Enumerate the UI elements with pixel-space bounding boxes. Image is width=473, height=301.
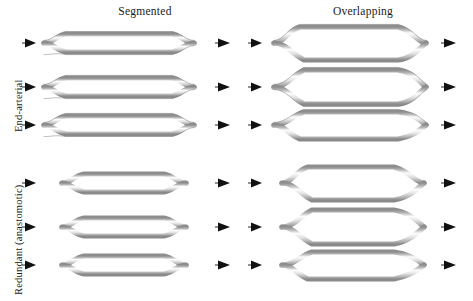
vascular-architecture-figure: Segmented Overlapping End-arterial Redun… [0, 0, 473, 301]
anastomotic-bridges-right [424, 183, 436, 265]
anastomotic-bridges-left [44, 183, 56, 265]
panel-end-arterial-segmented [22, 20, 237, 145]
column-header-overlapping: Overlapping [268, 4, 458, 18]
column-header-segmented: Segmented [60, 4, 230, 18]
panel-end-arterial-overlapping [248, 20, 463, 145]
panel-redundant-segmented [22, 160, 237, 295]
anastomotic-bridges-right [188, 183, 200, 265]
panel-redundant-overlapping [248, 160, 463, 295]
